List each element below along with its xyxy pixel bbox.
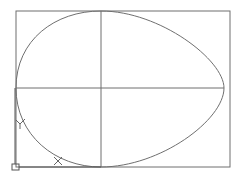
drawing-canvas[interactable]: X Y — [0, 0, 241, 181]
ucs-y-label-icon — [16, 119, 25, 129]
ucs-x-label-icon — [54, 157, 62, 165]
egg-curve[interactable] — [16, 11, 224, 167]
ucs-icon: X Y — [0, 0, 101, 170]
bounding-rectangle[interactable] — [16, 11, 230, 167]
